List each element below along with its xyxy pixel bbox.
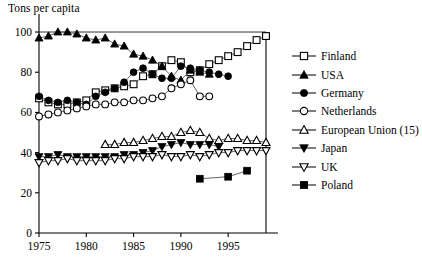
marker-open-down-triangle [243, 148, 251, 155]
y-tick-label: 20 [21, 187, 33, 199]
series-layer [35, 28, 270, 182]
legend-label: European Union (15) [321, 124, 419, 136]
series-line [39, 32, 209, 80]
legend-label: USA [321, 69, 344, 81]
marker-filled-down-triangle [158, 144, 166, 151]
marker-open-square [168, 57, 175, 64]
marker-filled-triangle [111, 40, 119, 47]
x-tick-label: 1975 [28, 240, 51, 252]
marker-open-circle [64, 107, 71, 114]
x-tick-label: 1995 [217, 240, 240, 252]
legend-item-poland[interactable]: Poland [291, 176, 419, 194]
legend-item-japan[interactable]: Japan [291, 139, 419, 157]
marker-filled-triangle [130, 50, 138, 57]
marker-open-circle [92, 101, 99, 108]
legend-label: Netherlands [321, 105, 377, 117]
marker-filled-square [244, 167, 251, 174]
y-tick-label: 80 [21, 66, 33, 78]
legend-label: Poland [321, 179, 353, 191]
legend-marker-open-square-icon [291, 49, 317, 63]
marker-filled-circle [130, 69, 137, 76]
marker-filled-triangle [101, 34, 109, 41]
marker-open-circle [168, 85, 175, 92]
legend-key-svg [291, 123, 317, 137]
marker-open-circle [83, 103, 90, 110]
marker-open-down-triangle [196, 154, 204, 161]
marker-open-down-triangle [253, 148, 261, 155]
marker-open-square [253, 37, 260, 44]
marker-open-triangle [101, 140, 109, 147]
legend-marker-filled-circle-icon [291, 86, 317, 100]
marker-open-down-triangle [149, 154, 157, 161]
legend-key-svg [291, 104, 317, 118]
marker-open-down-triangle [54, 158, 62, 165]
marker-filled-circle [225, 73, 232, 80]
marker-filled-circle [206, 69, 213, 76]
axes-layer [35, 14, 278, 237]
marker-open-square [140, 73, 147, 80]
marker-filled-down-triangle [300, 145, 308, 153]
series-line [39, 36, 266, 104]
legend-marker-open-triangle-icon [291, 123, 317, 137]
marker-filled-circle [187, 65, 194, 72]
marker-open-triangle [120, 138, 128, 145]
legend-label: Germany [321, 87, 364, 99]
series-poland [196, 167, 250, 182]
marker-open-down-triangle [120, 156, 128, 163]
marker-open-triangle [300, 125, 308, 133]
legend-marker-filled-square-icon [291, 178, 317, 192]
marker-open-circle [187, 77, 194, 84]
marker-filled-triangle [63, 28, 71, 35]
marker-open-down-triangle [139, 154, 147, 161]
marker-open-triangle [186, 126, 194, 133]
marker-filled-square [196, 175, 203, 182]
marker-filled-circle [177, 63, 184, 70]
marker-open-circle [55, 109, 62, 116]
marker-open-down-triangle [262, 148, 270, 155]
series-line [200, 171, 247, 179]
marker-open-down-triangle [224, 150, 232, 157]
legend-item-finland[interactable]: Finland [291, 47, 419, 65]
marker-open-circle [300, 108, 307, 115]
marker-filled-triangle [82, 34, 90, 41]
marker-filled-circle [159, 75, 166, 82]
series-line [105, 131, 266, 145]
marker-filled-circle [102, 89, 109, 96]
legend-key-svg [291, 68, 317, 82]
marker-open-down-triangle [101, 158, 109, 165]
legend-item-uk[interactable]: UK [291, 157, 419, 175]
marker-filled-circle [215, 71, 222, 78]
legend-item-netherlands[interactable]: Netherlands [291, 102, 419, 120]
legend-item-usa[interactable]: USA [291, 65, 419, 83]
marker-open-square [130, 81, 137, 88]
marker-open-circle [111, 99, 118, 106]
marker-open-circle [149, 95, 156, 102]
marker-open-circle [206, 93, 213, 100]
legend-marker-open-down-triangle-icon [291, 160, 317, 174]
marker-open-circle [36, 113, 43, 120]
marker-open-triangle [158, 132, 166, 139]
marker-filled-circle [92, 93, 99, 100]
x-tick-label: 1980 [75, 240, 98, 252]
legend-item-germany[interactable]: Germany [291, 84, 419, 102]
legend-key-svg [291, 141, 317, 155]
legend-label: UK [321, 161, 338, 173]
legend-label: Finland [321, 50, 356, 62]
marker-filled-circle [196, 67, 203, 74]
marker-open-down-triangle [177, 154, 185, 161]
marker-open-down-triangle [35, 160, 43, 167]
marker-open-down-triangle [92, 158, 100, 165]
marker-open-down-triangle [300, 163, 308, 171]
marker-open-down-triangle [82, 158, 90, 165]
marker-open-circle [73, 105, 80, 112]
legend-key-svg [291, 178, 317, 192]
marker-filled-square [225, 173, 232, 180]
legend-key-svg [291, 86, 317, 100]
marker-open-circle [159, 93, 166, 100]
marker-open-circle [177, 81, 184, 88]
y-tick-label: 0 [26, 227, 32, 239]
series-european-union-15 [101, 126, 270, 147]
legend-item-european-union-15[interactable]: European Union (15) [291, 121, 419, 139]
marker-filled-circle [36, 93, 43, 100]
marker-open-triangle [253, 136, 261, 143]
